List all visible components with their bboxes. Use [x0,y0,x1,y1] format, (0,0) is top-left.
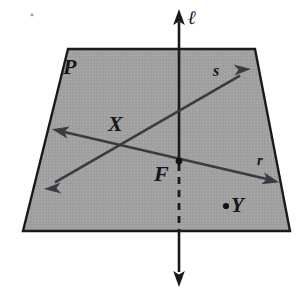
point-F-dot [176,158,183,165]
point-Y-dot [223,203,229,209]
point-Y-label: Y [231,195,244,216]
line-l-label: ℓ [188,8,196,27]
geometry-figure: P X F Y s r ℓ [0,0,303,288]
figure-canvas [0,0,303,288]
plane-P-label: P [63,56,76,78]
point-F-label: F [154,163,169,185]
point-X-label: X [108,113,123,135]
line-l-down-arrowhead [173,271,185,287]
line-s-label: s [213,63,219,79]
scan-speck-artifact [31,14,34,17]
line-r-label: r [257,153,263,168]
